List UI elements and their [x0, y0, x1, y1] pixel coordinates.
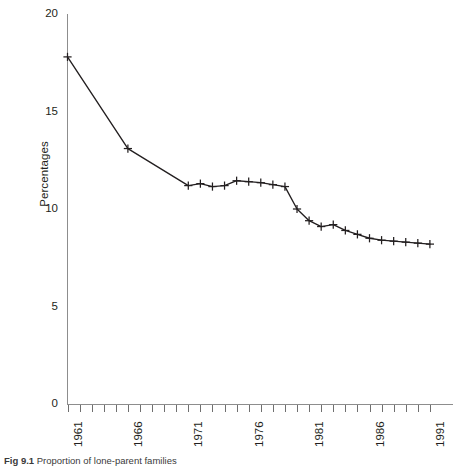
data-line	[68, 57, 430, 244]
data-point-1986	[365, 234, 373, 242]
data-point-1982	[317, 222, 325, 230]
data-point-1961	[63, 53, 71, 61]
data-point-1966	[124, 144, 132, 152]
data-point-1971	[184, 182, 192, 190]
data-point-1978	[269, 181, 277, 189]
figure-caption: Fig 9.1 Proportion of lone-parent famili…	[4, 455, 177, 466]
data-point-1983	[329, 221, 337, 229]
data-point-1984	[341, 226, 349, 234]
data-point-1991	[426, 240, 434, 248]
data-point-1988	[390, 237, 398, 245]
data-marker-group	[63, 53, 434, 248]
data-point-1973	[208, 182, 216, 190]
caption-text: Proportion of lone-parent families	[37, 455, 177, 466]
data-point-1976	[245, 178, 253, 186]
data-point-1977	[257, 179, 265, 187]
data-point-1974	[220, 182, 228, 190]
data-point-1975	[233, 177, 241, 185]
data-point-1989	[402, 238, 410, 246]
data-point-1979	[281, 182, 289, 190]
data-point-1990	[414, 239, 422, 247]
data-point-1987	[377, 236, 385, 244]
data-point-1985	[353, 230, 361, 238]
caption-label: Fig 9.1	[4, 455, 34, 466]
data-point-1972	[196, 180, 204, 188]
